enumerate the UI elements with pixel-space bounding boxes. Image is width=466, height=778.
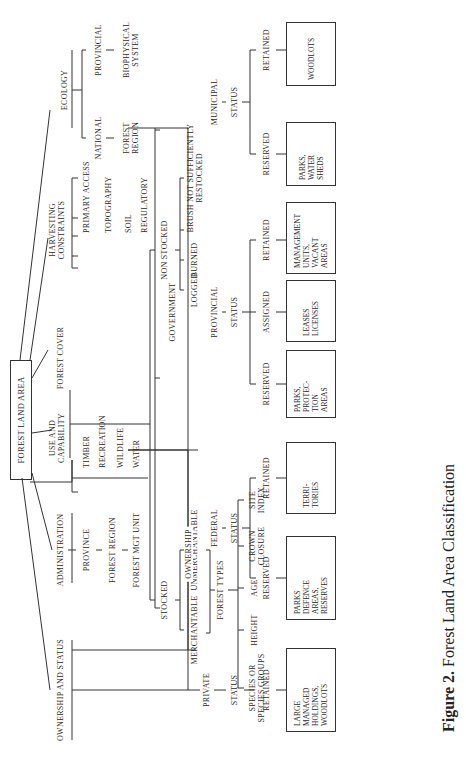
type-age: AGE [250, 579, 259, 596]
use-wildlife: WILDLIFE [116, 428, 125, 468]
box-provincial-assigned: LEASES LICENSES [286, 280, 336, 342]
harvest-regulatory: REGULATORY [140, 177, 149, 233]
category-ecology: ECOLOGY [60, 70, 69, 110]
cover-forest-types: FOREST TYPES [216, 560, 225, 620]
provincial-retained: RETAINED [262, 219, 271, 261]
ownership-private: PRIVATE [202, 673, 211, 707]
category-administration: ADMINISTRATION [56, 514, 65, 587]
municipal-retained: RETAINED [262, 29, 271, 71]
cover-merchantable: MERCHANTABLE [190, 596, 199, 665]
ecology-national: NATIONAL [94, 117, 103, 160]
harvest-soil: SOIL [124, 214, 133, 233]
nonstocked-burned: BURNED [190, 243, 199, 278]
box-private-retained: LARGE MANAGED HOLDINGS, WOODLOTS [286, 648, 336, 732]
box-federal-reserved: PARKS DEFENCE AREAS, RESERVES [286, 536, 336, 620]
category-forest-cover: FOREST COVER [56, 327, 65, 389]
private-retained: RETAINED [262, 669, 271, 711]
ecology-biophysical-system: BIOPHYSICAL SYSTEM [122, 22, 140, 78]
use-water: WATER [132, 440, 141, 468]
root-node-forest-land-area: FOREST LAND AREA [10, 360, 32, 480]
box-provincial-reserved: PARKS, PROTEC- TION AREAS [286, 350, 336, 418]
use-recreation: RECREATION [98, 415, 107, 468]
box-provincial-retained: MANAGEMENT UNITS, VACANT AREAS [286, 202, 336, 274]
provincial-assigned: ASSIGNED [262, 291, 271, 333]
nonstocked-brush: BRUSH NOT SUFFICIENTLY RESTOCKED [186, 124, 204, 233]
box-municipal-retained: WOODLOTS [286, 22, 336, 86]
ownership-government: GOVERNMENT [168, 283, 177, 342]
nonstocked-logged: LOGGED [190, 273, 199, 308]
admin-province: PROVINCE [82, 529, 91, 571]
ecology-provincial: PROVINCIAL [94, 24, 103, 75]
category-harvesting-constraints: HARVESTING CONSTRAINTS [48, 201, 66, 259]
ownership-label: OWNERSHIP [184, 526, 193, 581]
category-use-capability: USE AND CAPABILITY [48, 413, 66, 463]
federal-status: STATUS [230, 513, 239, 544]
use-timber: TIMBER [82, 436, 91, 468]
box-federal-retained: TERRI- TORIES [286, 442, 336, 514]
federal-retained: RETAINED [262, 457, 271, 499]
cover-non-stocked: NON STOCKED [160, 220, 169, 279]
federal-reserved: RESERVED [262, 556, 271, 599]
figure-caption: Figure 2. Forest Land Area Classificatio… [440, 464, 458, 732]
provincial-reserved: RESERVED [262, 362, 271, 405]
gov-municipal: MUNICIPAL [210, 79, 219, 125]
gov-provincial: PROVINCIAL [210, 286, 219, 337]
category-ownership-status: OWNERSHIP AND STATUS [56, 639, 65, 741]
admin-forest-mgt-unit: FOREST MGT UNIT [132, 513, 141, 588]
admin-forest-region: FOREST REGION [108, 517, 117, 583]
type-height: HEIGHT [250, 614, 259, 646]
harvest-topography: TOPOGRAPHY [104, 176, 113, 233]
box-municipal-reserved: PARKS, WATER SHEDS [286, 122, 336, 186]
forest-land-area-diagram: FOREST LAND AREA OWNERSHIP AND STATUS AD… [0, 0, 466, 778]
private-status: STATUS [230, 675, 239, 706]
municipal-reserved: RESERVED [262, 132, 271, 175]
figure-title: Forest Land Area Classification [440, 464, 457, 667]
gov-federal: FEDERAL [210, 509, 219, 547]
cover-stocked: STOCKED [160, 581, 169, 620]
ecology-forest-region: FOREST REGION [122, 122, 140, 154]
municipal-status: STATUS [230, 87, 239, 118]
provincial-status: STATUS [230, 297, 239, 328]
figure-number: Figure 2. [440, 671, 457, 732]
harvest-primary-access: PRIMARY ACCESS [82, 161, 91, 233]
